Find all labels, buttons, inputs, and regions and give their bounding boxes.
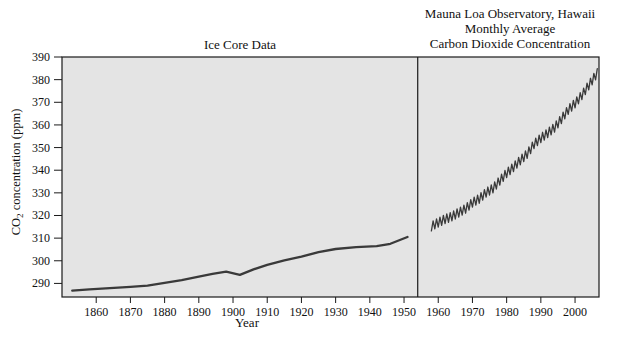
x-tick-label: 1970 [460, 305, 484, 319]
x-tick-label: 1870 [118, 305, 142, 319]
y-axis-title-rest: concentration (ppm) [9, 109, 23, 214]
y-tick-label: 320 [32, 208, 50, 222]
x-tick-label: 1990 [529, 305, 553, 319]
y-tick-label: 300 [32, 254, 50, 268]
x-tick-label: 1960 [426, 305, 450, 319]
y-tick-label: 360 [32, 118, 50, 132]
plot-area [62, 57, 599, 297]
right-panel-title-line-2: Monthly Average [465, 21, 556, 36]
x-tick-label: 1930 [324, 305, 348, 319]
x-tick-label: 1980 [495, 305, 519, 319]
y-tick-label: 380 [32, 73, 50, 87]
plot-layer: 2903003103203303403503603703803901860187… [32, 50, 599, 319]
x-tick-label: 1890 [187, 305, 211, 319]
y-axis-title-prefix: CO [9, 218, 23, 235]
y-axis-title: CO2 concentration (ppm) [9, 109, 25, 236]
co2-concentration-figure: 2903003103203303403503603703803901860187… [0, 0, 618, 347]
y-tick-label: 330 [32, 186, 50, 200]
x-tick-label: 2000 [563, 305, 587, 319]
left-panel-title: Ice Core Data [204, 37, 276, 52]
x-tick-label: 1880 [153, 305, 177, 319]
x-tick-label: 1920 [289, 305, 313, 319]
y-tick-label: 370 [32, 95, 50, 109]
right-panel-title-line-1: Mauna Loa Observatory, Hawaii [425, 6, 596, 21]
co2-chart: 2903003103203303403503603703803901860187… [0, 0, 618, 347]
x-tick-label: 1860 [84, 305, 108, 319]
x-tick-label: 1950 [392, 305, 416, 319]
y-tick-label: 350 [32, 141, 50, 155]
y-tick-label: 310 [32, 231, 50, 245]
y-tick-label: 340 [32, 163, 50, 177]
x-axis-title: Year [235, 315, 260, 330]
x-tick-label: 1940 [358, 305, 382, 319]
right-panel-title-line-3: Carbon Dioxide Concentration [430, 36, 591, 51]
y-tick-label: 290 [32, 276, 50, 290]
y-tick-label: 390 [32, 50, 50, 64]
